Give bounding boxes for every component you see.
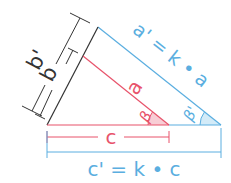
label-a-prime: a' = k • a xyxy=(129,18,214,92)
label-a: a xyxy=(121,76,148,99)
similar-triangles-diagram: c c' = k • c a a' = k • a β β' b b' xyxy=(0,0,231,183)
dimension-c-prime xyxy=(47,128,221,158)
label-c: c xyxy=(106,125,117,149)
label-c-prime: c' = k • c xyxy=(87,157,180,181)
